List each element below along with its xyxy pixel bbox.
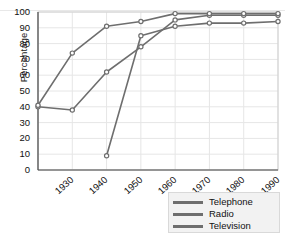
y-tick-label: 70	[6, 53, 30, 64]
y-tick-label: 0	[6, 164, 30, 175]
y-tick-label: 40	[6, 101, 30, 112]
line-chart: Percentage 0102030405060708090100 193019…	[0, 0, 285, 237]
legend-item-telephone: Telephone	[173, 196, 275, 208]
legend-line-icon	[173, 225, 203, 228]
legend-item-television: Television	[173, 220, 275, 232]
legend-label: Radio	[209, 208, 234, 220]
chart-legend: Telephone Radio Television	[168, 192, 280, 233]
top-border-line	[0, 10, 285, 11]
y-tick-label: 20	[6, 132, 30, 143]
y-tick-label: 100	[6, 6, 30, 17]
legend-item-radio: Radio	[173, 208, 275, 220]
y-tick-label: 80	[6, 38, 30, 49]
y-tick-label: 10	[6, 148, 30, 159]
legend-line-icon	[173, 201, 203, 204]
legend-label: Telephone	[209, 196, 253, 208]
legend-line-icon	[173, 213, 203, 216]
y-tick-label: 60	[6, 69, 30, 80]
y-tick-label: 90	[6, 22, 30, 33]
y-tick-label: 30	[6, 117, 30, 128]
y-tick-label: 50	[6, 85, 30, 96]
legend-label: Television	[209, 220, 251, 232]
